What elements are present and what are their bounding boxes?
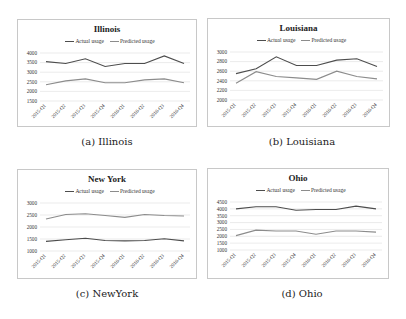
svg-text:1500: 1500 (27, 236, 38, 242)
svg-text:4500: 4500 (217, 199, 228, 205)
svg-text:2016-Q4: 2016-Q4 (169, 253, 185, 269)
svg-text:2016-Q2: 2016-Q2 (321, 102, 337, 118)
svg-text:3500: 3500 (27, 59, 38, 65)
svg-text:3500: 3500 (217, 213, 228, 219)
svg-text:2015-Q1: 2015-Q1 (221, 252, 237, 268)
svg-text:2015-Q3: 2015-Q3 (70, 103, 86, 119)
svg-text:2000: 2000 (217, 233, 228, 239)
caption-louisiana: (b) Louisiana (202, 136, 402, 147)
chart-panel-illinois: IllinoisActual usagePredicted usage15002… (17, 19, 197, 127)
svg-text:2400: 2400 (217, 78, 228, 84)
svg-text:3000: 3000 (217, 49, 228, 55)
svg-text:2000: 2000 (27, 88, 38, 94)
svg-text:1000: 1000 (217, 247, 228, 253)
predicted-usage-line (46, 214, 184, 219)
svg-text:1500: 1500 (27, 98, 38, 104)
predicted-usage-line (236, 71, 377, 83)
svg-text:4000: 4000 (27, 50, 38, 56)
line-chart-plot: 100015002000250030003500400045002015-Q12… (208, 169, 388, 278)
line-chart-plot: 2000220024002600280030002015-Q12015-Q220… (208, 19, 389, 126)
predicted-usage-line (236, 230, 376, 235)
svg-text:2015-Q3: 2015-Q3 (261, 102, 277, 118)
svg-text:2600: 2600 (217, 68, 228, 74)
svg-text:2015-Q4: 2015-Q4 (90, 103, 106, 119)
svg-text:2015-Q1: 2015-Q1 (31, 103, 47, 119)
svg-text:2200: 2200 (217, 87, 228, 93)
svg-text:2016-Q1: 2016-Q1 (109, 253, 125, 269)
svg-text:3000: 3000 (217, 219, 228, 225)
line-chart-plot: 1500200025003000350040002015-Q12015-Q220… (18, 20, 196, 126)
svg-text:2016-Q4: 2016-Q4 (169, 103, 185, 119)
line-chart-plot: 100015002000250030002015-Q12015-Q22015-Q… (18, 170, 196, 278)
svg-text:2016-Q3: 2016-Q3 (149, 253, 165, 269)
caption-illinois: (a) Illinois (7, 136, 207, 147)
svg-text:2015-Q2: 2015-Q2 (241, 102, 257, 118)
caption-new-york: (c) NewYork (7, 288, 207, 299)
svg-text:2016-Q3: 2016-Q3 (149, 103, 165, 119)
chart-panel-new-york: New YorkActual usagePredicted usage10001… (17, 169, 197, 279)
svg-text:2015-Q2: 2015-Q2 (50, 253, 66, 269)
svg-text:2500: 2500 (27, 79, 38, 85)
svg-text:1000: 1000 (27, 248, 38, 254)
svg-text:2015-Q3: 2015-Q3 (70, 253, 86, 269)
svg-text:3000: 3000 (27, 69, 38, 75)
svg-text:2015-Q4: 2015-Q4 (281, 102, 297, 118)
svg-text:2015-Q3: 2015-Q3 (261, 252, 277, 268)
svg-text:2016-Q2: 2016-Q2 (129, 103, 145, 119)
svg-text:2015-Q4: 2015-Q4 (90, 253, 106, 269)
svg-text:2016-Q1: 2016-Q1 (301, 102, 317, 118)
chart-panel-ohio: OhioActual usagePredicted usage100015002… (207, 168, 389, 279)
actual-usage-line (46, 56, 184, 67)
svg-text:2015-Q1: 2015-Q1 (221, 102, 237, 118)
svg-text:2015-Q1: 2015-Q1 (31, 253, 47, 269)
svg-text:2016-Q1: 2016-Q1 (301, 252, 317, 268)
svg-text:2500: 2500 (217, 226, 228, 232)
svg-text:2000: 2000 (217, 97, 228, 103)
svg-text:2500: 2500 (27, 212, 38, 218)
svg-text:2016-Q4: 2016-Q4 (361, 252, 377, 268)
svg-text:2016-Q2: 2016-Q2 (129, 253, 145, 269)
svg-text:2016-Q3: 2016-Q3 (341, 102, 357, 118)
svg-text:3000: 3000 (27, 200, 38, 206)
caption-ohio: (d) Ohio (202, 288, 402, 299)
svg-text:2016-Q4: 2016-Q4 (362, 102, 378, 118)
svg-text:2016-Q2: 2016-Q2 (321, 252, 337, 268)
svg-text:2016-Q3: 2016-Q3 (341, 252, 357, 268)
svg-text:2015-Q2: 2015-Q2 (50, 103, 66, 119)
svg-text:2000: 2000 (27, 224, 38, 230)
actual-usage-line (236, 206, 376, 210)
chart-panel-louisiana: LouisianaActual usagePredicted usage2000… (207, 18, 390, 127)
svg-text:2015-Q2: 2015-Q2 (241, 252, 257, 268)
svg-text:2800: 2800 (217, 58, 228, 64)
svg-text:4000: 4000 (217, 206, 228, 212)
svg-text:2015-Q4: 2015-Q4 (281, 252, 297, 268)
svg-text:1500: 1500 (217, 240, 228, 246)
svg-text:2016-Q1: 2016-Q1 (109, 103, 125, 119)
